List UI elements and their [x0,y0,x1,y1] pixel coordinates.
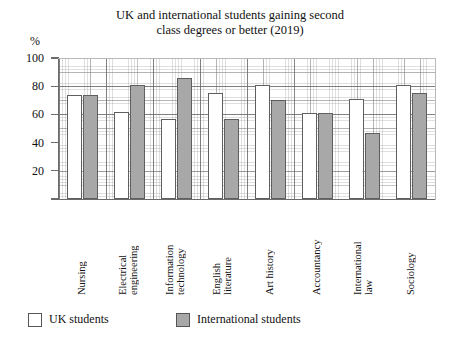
bar-uk-1 [114,112,129,199]
chart-legend: UK studentsInternational students [28,312,438,334]
y-tick-100 [51,57,59,58]
bar-international-5 [318,113,333,199]
bar-international-4 [271,100,286,199]
bar-international-2 [177,78,192,199]
bar-uk-6 [349,99,364,199]
bar-uk-4 [255,85,270,199]
bar-international-0 [83,95,98,199]
bar-chart: UK and international students gaining se… [0,0,461,348]
y-tick-0 [51,198,59,199]
chart-title: UK and international students gaining se… [60,8,400,38]
y-tick-label-60: 60 [18,109,44,119]
bar-uk-2 [161,119,176,199]
y-tick-label-40: 40 [18,138,44,148]
bar-international-7 [412,93,427,199]
legend-item-international-students[interactable]: International students [176,312,301,327]
plot-area [58,58,435,200]
x-axis-label-5: Accountancy [311,203,322,295]
x-axis-label-0: Nursing [76,203,87,295]
x-axis-label-2: Information technology [164,203,186,295]
y-tick-60 [51,114,59,115]
legend-swatch-icon-uk [28,313,42,327]
x-axis-label-7: Sociology [405,203,416,295]
y-tick-label-20: 20 [18,166,44,176]
y-tick-20 [51,170,59,171]
x-axis-label-1: Electrical engineering [117,203,139,295]
y-axis-unit-label: % [30,34,40,49]
bars-layer [59,58,435,199]
y-tick-label-100: 100 [18,53,44,63]
legend-label-1: International students [197,312,301,327]
y-tick-label-80: 80 [18,81,44,91]
bar-uk-5 [302,113,317,199]
x-axis-label-4: Art history [264,203,275,295]
bar-uk-7 [396,85,411,199]
bar-uk-0 [67,95,82,199]
bar-international-1 [130,85,145,199]
bar-international-6 [365,133,380,199]
legend-swatch-icon-intl [176,313,190,327]
x-axis-labels: NursingElectrical engineeringInformation… [58,203,435,298]
x-axis-label-3: English literature [211,203,233,295]
bar-international-3 [224,119,239,199]
y-tick-40 [51,142,59,143]
chart-title-line-2: class degrees or better (2019) [60,23,400,38]
bar-uk-3 [208,93,223,199]
x-axis-label-6: International law [352,203,374,295]
legend-label-0: UK students [49,312,109,327]
legend-item-uk-students[interactable]: UK students [28,312,109,327]
chart-title-line-1: UK and international students gaining se… [116,8,344,22]
y-tick-80 [51,86,59,87]
